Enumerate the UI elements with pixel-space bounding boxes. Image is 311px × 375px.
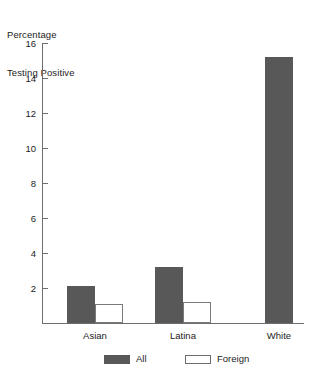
bars-layer (0, 43, 311, 323)
legend-item-foreign[interactable]: Foreign (185, 354, 249, 364)
bar-latina-foreign[interactable] (183, 302, 211, 323)
bar-group-latina (155, 43, 211, 323)
legend-swatch-foreign-icon (185, 355, 211, 364)
legend-label-all: All (136, 354, 147, 364)
bar-asian-all[interactable] (67, 286, 95, 323)
legend-swatch-all-icon (104, 355, 130, 364)
legend-item-all[interactable]: All (104, 354, 147, 364)
bar-white-all[interactable] (265, 57, 293, 323)
bar-latina-all[interactable] (155, 267, 183, 323)
x-axis-label-latina: Latina (153, 330, 213, 341)
legend-label-foreign: Foreign (217, 354, 249, 364)
chart-legend: All Foreign (0, 354, 311, 370)
bar-chart: Percentage Testing Positive 16 14 12 10 … (0, 0, 311, 375)
x-axis-label-asian: Asian (65, 330, 125, 341)
bar-group-asian (67, 43, 123, 323)
x-axis-line (42, 323, 304, 324)
x-axis-label-white: White (249, 330, 309, 341)
bar-group-white (265, 43, 293, 323)
bar-asian-foreign[interactable] (95, 304, 123, 323)
